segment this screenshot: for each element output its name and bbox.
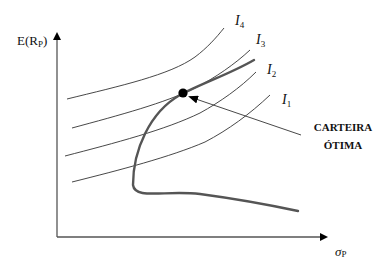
axes bbox=[57, 34, 326, 237]
x-axis-label: σP bbox=[335, 244, 346, 259]
efficient-frontier-diagram: E(RP) σP I4 I3 I2 I1 CARTEIRA ÓTIMA bbox=[0, 0, 391, 270]
label-i2: I2 bbox=[266, 62, 276, 79]
indifference-curve-i2 bbox=[65, 72, 256, 156]
y-axis-label: E(RP) bbox=[17, 33, 47, 49]
indifference-curve-i1 bbox=[72, 95, 270, 182]
efficient-frontier-curve bbox=[133, 60, 298, 211]
indifference-curve-i4 bbox=[67, 28, 224, 99]
optimal-portfolio-point bbox=[178, 88, 187, 97]
label-i3: I3 bbox=[255, 32, 266, 49]
label-i4: I4 bbox=[234, 13, 245, 30]
indifference-curve-i3 bbox=[72, 50, 250, 128]
label-i1: I1 bbox=[281, 92, 291, 109]
callout-line-1: CARTEIRA bbox=[314, 121, 372, 133]
callout-line-2: ÓTIMA bbox=[324, 139, 363, 151]
